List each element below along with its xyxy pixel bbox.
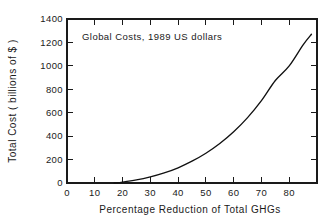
y-tick-label: 200 — [46, 154, 63, 165]
y-tick-label: 600 — [46, 107, 63, 118]
x-tick-label: 80 — [284, 187, 295, 198]
line-chart: 0 200 400 600 800 1000 1200 1400 0 10 20… — [0, 0, 330, 224]
x-axis-title: Percentage Reduction of Total GHGs — [99, 204, 280, 215]
x-tick-label: 10 — [89, 187, 100, 198]
chart-figure: 0 200 400 600 800 1000 1200 1400 0 10 20… — [0, 0, 330, 224]
chart-annotation: Global Costs, 1989 US dollars — [82, 31, 222, 42]
y-tick-label: 1400 — [40, 13, 63, 24]
x-tick-label: 20 — [117, 187, 128, 198]
y-tick-label: 1000 — [40, 60, 63, 71]
y-tick-label: 0 — [57, 177, 63, 188]
y-tick-label: 400 — [46, 130, 63, 141]
x-tick-label: 70 — [256, 187, 267, 198]
y-tick-label: 1200 — [40, 37, 63, 48]
y-tick-label: 800 — [46, 84, 63, 95]
y-axis-title: Total Cost ( billions of $ ) — [7, 39, 18, 163]
x-tick-label: 50 — [200, 187, 211, 198]
x-tick-label: 40 — [172, 187, 183, 198]
x-tick-label: 60 — [228, 187, 239, 198]
x-tick-label: 0 — [64, 187, 70, 198]
x-tick-label: 30 — [145, 187, 156, 198]
x-tick-labels: 0 10 20 30 40 50 60 70 80 — [64, 187, 295, 198]
